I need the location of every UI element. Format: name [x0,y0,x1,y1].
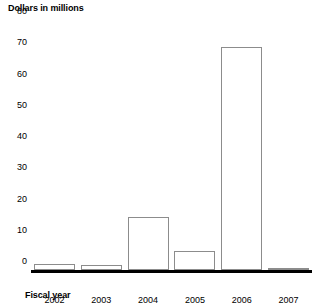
plot-area: 0102030405060708020022003200420052006200… [31,20,312,273]
bar-slot [172,20,219,270]
y-axis-tick-label: 10 [7,225,27,234]
bar-series [31,20,312,270]
y-axis-tick-label: 60 [7,69,27,78]
x-axis-line [31,270,312,273]
y-axis-tick-label: 30 [7,163,27,172]
y-axis-tick-label: 50 [7,100,27,109]
x-axis-tick-label: 2004 [138,296,158,305]
y-axis-tick-label: 80 [7,7,27,16]
bar [268,268,309,270]
y-axis-tick-label: 20 [7,194,27,203]
bar-slot [31,20,78,270]
bar [128,217,169,270]
bar [221,47,262,270]
bar-chart: Dollars in millions 01020304050607080200… [0,0,319,307]
x-axis-tick-label: 2005 [185,296,205,305]
x-axis-title: Fiscal year [25,290,70,300]
x-axis-tick-label: 2003 [91,296,111,305]
bar-slot [265,20,312,270]
y-axis-tick-label: 40 [7,132,27,141]
bar-slot [125,20,172,270]
y-axis-tick-label: 0 [7,257,27,266]
bar [81,265,122,270]
bar [34,264,75,270]
bar-slot [218,20,265,270]
y-axis-tick-label: 70 [7,38,27,47]
x-axis-tick-label: 2006 [232,296,252,305]
bar [174,251,215,270]
x-axis-tick-label: 2007 [279,296,299,305]
bar-slot [78,20,125,270]
